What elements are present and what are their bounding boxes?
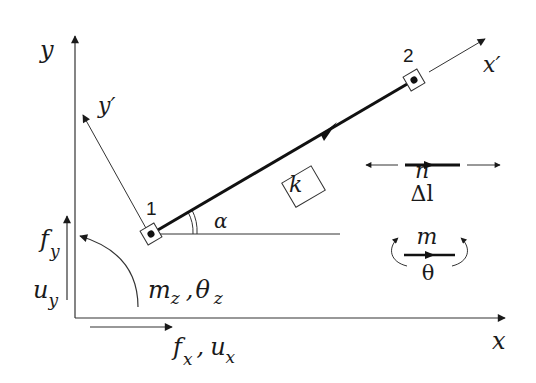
- node-1-label: 1: [146, 198, 157, 219]
- node-2-label: 2: [403, 45, 414, 66]
- uy-label: uy: [33, 276, 58, 310]
- angle-label: α: [214, 209, 228, 233]
- legend-moment: m θ: [392, 224, 468, 285]
- mz-thetaz-label: mz,θz: [148, 276, 224, 308]
- mz-arc-arrow: [80, 236, 138, 307]
- global-y-label: y: [39, 36, 54, 64]
- rotation-label: θ: [422, 261, 435, 285]
- element-label: k: [289, 172, 302, 197]
- axial-force-label: n: [415, 158, 429, 183]
- local-x-axis: [429, 39, 485, 72]
- element-diagram: y x y′ x′ α k 1 2 fy uy mz,θz fx,ux: [0, 0, 536, 383]
- angle-arc-outer: [188, 212, 193, 234]
- global-x-label: x: [492, 327, 506, 355]
- node-1: [140, 223, 162, 245]
- moment-label: m: [417, 224, 438, 249]
- local-x-label: x′: [483, 52, 500, 77]
- axial-elongation-label: Δl: [411, 181, 434, 206]
- fy-label: fy: [38, 225, 60, 261]
- element-bar: [151, 80, 414, 234]
- fx-ux-label: fx,ux: [171, 333, 236, 369]
- local-y-label: y′: [97, 93, 115, 118]
- node-2: [403, 69, 425, 91]
- legend-axial: n Δl: [366, 158, 500, 206]
- local-y-axis: [83, 115, 147, 230]
